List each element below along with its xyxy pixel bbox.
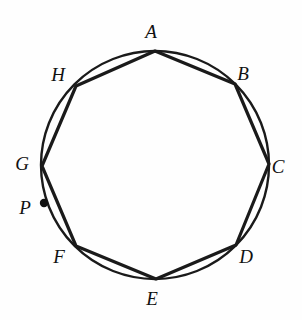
vertex-label-c: C [272, 157, 285, 176]
vertex-label-g: G [15, 154, 29, 173]
point-label-p: P [19, 198, 31, 217]
vertex-label-h: H [51, 65, 65, 84]
point-p-marker [40, 199, 48, 207]
vertex-label-b: B [237, 64, 249, 83]
inscribed-octagon [42, 51, 269, 279]
circle-octagon-svg [0, 0, 302, 320]
vertex-label-e: E [146, 289, 158, 308]
geometry-figure: A B C D E F G H P [0, 0, 302, 320]
vertex-label-f: F [53, 247, 65, 266]
vertex-label-d: D [239, 247, 253, 266]
vertex-label-a: A [145, 22, 157, 41]
